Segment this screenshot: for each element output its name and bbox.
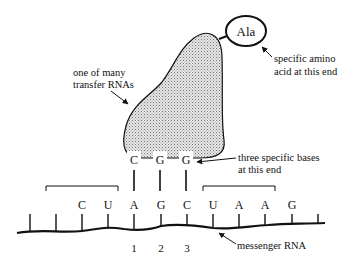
mrna-base: A (261, 198, 270, 212)
codon-number: 2 (158, 242, 164, 254)
mrna-base: G (288, 198, 297, 212)
amino-acid-text: Ala (237, 24, 256, 39)
trna-arrow (111, 91, 128, 104)
anticodon-base: C (130, 153, 138, 167)
mrna-base: A (130, 198, 139, 212)
anticodon-label-line2: at this end (238, 164, 282, 175)
mrna-label: messenger RNA (237, 240, 307, 251)
mrna-arrow (219, 233, 236, 244)
trna-label-line1: one of many (73, 67, 126, 78)
anticodon-base: G (182, 153, 191, 167)
mrna-base: A (235, 198, 244, 212)
mrna-base: C (183, 198, 191, 212)
amino-acid-bond (219, 36, 227, 39)
mrna-base: C (78, 198, 86, 212)
codon-number: 1 (131, 242, 137, 254)
trna-mrna-diagram: Ala specific amino acid at this end one … (0, 0, 355, 262)
trna-label-line2: transfer RNAs (73, 79, 134, 90)
anticodon-base: G (156, 153, 165, 167)
mrna-backbone (17, 223, 325, 233)
codon-bracket-left (46, 186, 118, 191)
mrna-base: G (157, 198, 166, 212)
amino-acid-label-line2: acid at this end (274, 66, 338, 77)
codon-number: 3 (184, 242, 190, 254)
codon-bracket-right (203, 186, 275, 191)
anticodon-arrow (197, 158, 236, 162)
anticodon-label-line1: three specific bases (238, 152, 320, 163)
mrna-base: U (104, 198, 113, 212)
trna-body (124, 33, 225, 158)
amino-acid-arrow (262, 47, 272, 57)
amino-acid-label-line1: specific amino (274, 53, 336, 64)
mrna-base: U (209, 198, 218, 212)
